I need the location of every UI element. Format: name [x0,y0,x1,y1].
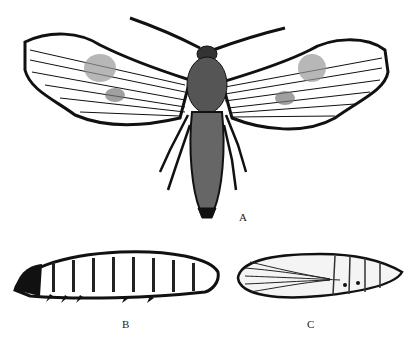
larva-drawing [15,252,218,303]
moth-lifecycle-illustration [0,0,415,340]
pupa-drawing [238,254,402,297]
panel-label-c: C [307,318,314,330]
adult-moth-drawing [25,18,388,218]
panel-label-a: A [239,211,247,223]
panel-label-b: B [122,318,129,330]
illustration-canvas: A B C [0,0,415,340]
